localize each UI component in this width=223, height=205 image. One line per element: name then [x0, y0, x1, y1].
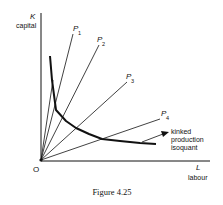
svg-text:1: 1 [78, 30, 81, 36]
ray-label-p2: P 2 [97, 35, 105, 47]
kinked-isoquant-diagram: K capital O L labour P 1 P 2 P 3 P 4 kin… [0, 0, 223, 205]
svg-text:kinked: kinked [171, 128, 191, 135]
ray-label-p3: P 3 [126, 72, 134, 84]
ray-label-p1: P 1 [73, 24, 81, 36]
isoquant-label-pointer [142, 134, 163, 142]
svg-text:2: 2 [102, 41, 105, 47]
origin-point [39, 158, 42, 161]
x-axis-label: labour [188, 174, 208, 181]
x-axis-symbol: L [196, 163, 200, 172]
svg-text:production: production [171, 136, 204, 144]
ray-p1 [41, 34, 73, 160]
svg-text:isoquant: isoquant [171, 144, 198, 152]
isoquant-label: kinked production isoquant [171, 128, 204, 152]
y-axis-symbol: K [30, 12, 36, 21]
svg-text:4: 4 [166, 115, 169, 121]
svg-text:3: 3 [131, 78, 134, 84]
arrowhead-icon [161, 131, 169, 137]
figure-caption: Figure 4.25 [92, 187, 131, 197]
ray-label-p4: P 4 [161, 109, 169, 121]
y-axis-label: capital [16, 22, 37, 30]
kinked-isoquant-curve [50, 56, 156, 144]
origin-label: O [33, 165, 39, 174]
